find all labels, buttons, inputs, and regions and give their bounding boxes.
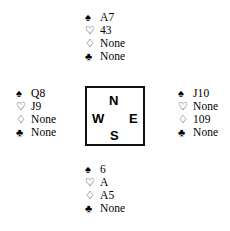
hand-east-spades-value: J10 — [193, 87, 209, 100]
hand-north-hearts-value: 43 — [100, 24, 112, 37]
bridge-hand-diagram: ♠ A7 ♡ 43 ♢ None ♣ None ♠ Q8 ♡ J9 ♢ None — [0, 0, 230, 231]
hand-north-hearts-row: ♡ 43 — [85, 24, 125, 37]
spade-icon: ♠ — [85, 163, 100, 176]
hand-south-clubs-value: None — [100, 202, 125, 215]
hand-west-spades-value: Q8 — [31, 87, 45, 100]
spade-icon: ♠ — [85, 11, 100, 24]
hand-west: ♠ Q8 ♡ J9 ♢ None ♣ None — [16, 87, 56, 139]
hand-south-diamonds-value: A5 — [100, 189, 114, 202]
heart-icon: ♡ — [85, 176, 100, 189]
club-icon: ♣ — [178, 126, 193, 139]
hand-north-diamonds-value: None — [100, 37, 125, 50]
diamond-icon: ♢ — [178, 113, 193, 126]
spade-icon: ♠ — [16, 87, 31, 100]
hand-east-clubs-row: ♣ None — [178, 126, 218, 139]
hand-west-diamonds-row: ♢ None — [16, 113, 56, 126]
hand-east-hearts-value: None — [193, 100, 218, 113]
hand-south-diamonds-row: ♢ A5 — [85, 189, 125, 202]
heart-icon: ♡ — [178, 100, 193, 113]
hand-north-spades-row: ♠ A7 — [85, 11, 125, 24]
hand-south-hearts-value: A — [100, 176, 108, 189]
hand-west-clubs-value: None — [31, 126, 56, 139]
hand-north-spades-value: A7 — [100, 11, 114, 24]
compass-box: N W E S — [85, 86, 145, 146]
hand-south: ♠ 6 ♡ A ♢ A5 ♣ None — [85, 163, 125, 215]
hand-east-spades-row: ♠ J10 — [178, 87, 218, 100]
hand-east-diamonds-value: 109 — [193, 113, 211, 126]
compass-label-west: W — [92, 112, 104, 125]
hand-west-hearts-value: J9 — [31, 100, 41, 113]
club-icon: ♣ — [85, 50, 100, 63]
hand-east-clubs-value: None — [193, 126, 218, 139]
compass-label-south: S — [110, 129, 119, 142]
hand-east-hearts-row: ♡ None — [178, 100, 218, 113]
hand-south-spades-value: 6 — [100, 163, 106, 176]
hand-west-hearts-row: ♡ J9 — [16, 100, 56, 113]
hand-north: ♠ A7 ♡ 43 ♢ None ♣ None — [85, 11, 125, 63]
hand-east: ♠ J10 ♡ None ♢ 109 ♣ None — [178, 87, 218, 139]
club-icon: ♣ — [85, 202, 100, 215]
hand-west-spades-row: ♠ Q8 — [16, 87, 56, 100]
hand-west-clubs-row: ♣ None — [16, 126, 56, 139]
hand-south-spades-row: ♠ 6 — [85, 163, 125, 176]
heart-icon: ♡ — [16, 100, 31, 113]
diamond-icon: ♢ — [85, 189, 100, 202]
heart-icon: ♡ — [85, 24, 100, 37]
hand-north-clubs-value: None — [100, 50, 125, 63]
compass-label-north: N — [109, 94, 118, 107]
hand-east-diamonds-row: ♢ 109 — [178, 113, 218, 126]
hand-west-diamonds-value: None — [31, 113, 56, 126]
diamond-icon: ♢ — [16, 113, 31, 126]
hand-south-clubs-row: ♣ None — [85, 202, 125, 215]
diamond-icon: ♢ — [85, 37, 100, 50]
hand-north-clubs-row: ♣ None — [85, 50, 125, 63]
club-icon: ♣ — [16, 126, 31, 139]
hand-north-diamonds-row: ♢ None — [85, 37, 125, 50]
spade-icon: ♠ — [178, 87, 193, 100]
hand-south-hearts-row: ♡ A — [85, 176, 125, 189]
compass-label-east: E — [129, 112, 138, 125]
